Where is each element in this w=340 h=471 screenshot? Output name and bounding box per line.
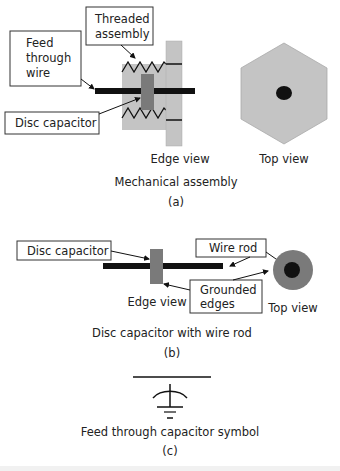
tag-a: (a) xyxy=(168,195,184,209)
tag-c: (c) xyxy=(162,444,177,458)
caption-mechanical-assembly: Mechanical assembly xyxy=(115,175,238,189)
label-wire-rod: Wire rod xyxy=(209,241,257,255)
wire-hole xyxy=(276,86,292,100)
caption-top-view-b: Top view xyxy=(267,301,318,315)
panel-c-symbol: Feed through capacitor symbol (c) xyxy=(81,377,260,458)
label-feed: Feed xyxy=(26,36,53,50)
panel-b-disc-capacitor: Disc capacitor Wire rod Grounded edges E… xyxy=(17,239,318,360)
label-disc-capacitor-b: Disc capacitor xyxy=(27,244,109,258)
wire-rod-top xyxy=(284,262,300,278)
disc-capacitor xyxy=(141,74,154,110)
label-wire: wire xyxy=(26,66,50,80)
caption-edge-view-b: Edge view xyxy=(127,295,186,309)
caption-top-view-a: Top view xyxy=(258,152,309,166)
panel-a-mechanical-assembly: Threaded assembly Feed through wire Disc… xyxy=(5,7,327,209)
caption-symbol: Feed through capacitor symbol xyxy=(81,425,260,439)
label-through: through xyxy=(26,51,71,65)
feedthrough-capacitor-diagram: Threaded assembly Feed through wire Disc… xyxy=(0,0,340,471)
label-threaded: Threaded xyxy=(94,12,150,26)
label-grounded: Grounded xyxy=(200,283,257,297)
label-edges: edges xyxy=(200,297,235,311)
caption-edge-view-a: Edge view xyxy=(150,152,209,166)
disc-capacitor-edge xyxy=(150,249,163,284)
tag-b: (b) xyxy=(164,346,180,360)
caption-disc-capacitor-wire-rod: Disc capacitor with wire rod xyxy=(92,326,252,340)
cut-off-caption xyxy=(0,466,340,471)
label-disc-capacitor: Disc capacitor xyxy=(15,116,97,130)
label-assembly: assembly xyxy=(95,27,150,41)
